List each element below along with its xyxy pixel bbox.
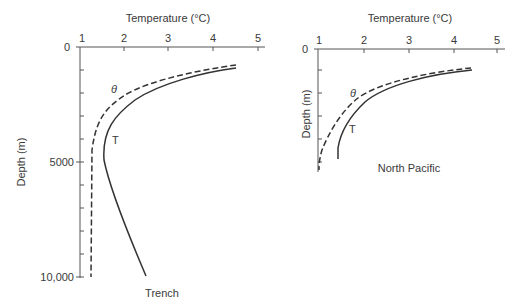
right-x-axis-title: Temperature (°C) [368, 12, 452, 24]
left-y-tick-0: 0 [64, 41, 70, 53]
left-x-tick-2: 2 [121, 32, 127, 44]
left-y-tick-10000: 10,000 [40, 271, 74, 283]
right-x-tick-2: 2 [361, 34, 367, 46]
figure-canvas: Temperature (°C) 1 2 3 4 5 [0, 0, 523, 307]
right-y-axis-title: Depth (m) [300, 90, 312, 139]
left-caption: Trench [145, 287, 179, 299]
left-theta-label: θ [111, 83, 117, 95]
left-y-axis-title: Depth (m) [15, 138, 27, 187]
right-x-tick-4: 4 [451, 34, 457, 46]
right-y-tick-0: 0 [302, 43, 308, 55]
right-t-curve [338, 70, 472, 159]
right-x-ticks [364, 49, 497, 53]
left-x-ticks [124, 47, 258, 51]
left-y-tick-5000: 5000 [50, 156, 74, 168]
right-caption: North Pacific [378, 162, 441, 174]
right-t-label: T [349, 123, 356, 135]
left-chart: Temperature (°C) 1 2 3 4 5 [15, 12, 265, 299]
left-x-axis-title: Temperature (°C) [126, 12, 210, 24]
right-x-tick-5: 5 [494, 34, 500, 46]
right-theta-curve [319, 68, 471, 170]
left-theta-curve [91, 65, 236, 277]
right-chart: Temperature (°C) 1 2 3 4 5 0 Depth (m) θ… [300, 12, 505, 174]
left-t-label: T [112, 134, 119, 146]
right-theta-label: θ [350, 87, 356, 99]
left-x-tick-1: 1 [79, 32, 85, 44]
right-x-tick-3: 3 [406, 34, 412, 46]
left-x-tick-3: 3 [165, 32, 171, 44]
left-x-tick-5: 5 [255, 32, 261, 44]
left-x-tick-4: 4 [210, 32, 216, 44]
left-t-curve [104, 68, 236, 276]
right-x-tick-1: 1 [316, 34, 322, 46]
